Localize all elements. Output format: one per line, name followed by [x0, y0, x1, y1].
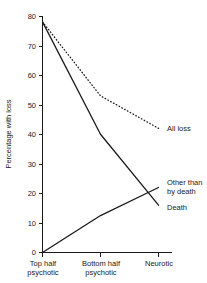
x-cat-label-1-line2: psychotic	[85, 268, 117, 277]
y-tick-label-70: 70	[28, 42, 36, 51]
y-tick-label-40: 40	[28, 130, 36, 139]
y-tick-label-60: 60	[28, 71, 36, 80]
y-tick-label-80: 80	[28, 12, 36, 21]
series-label-other-than-line2: by death	[167, 187, 196, 196]
y-tick-label-10: 10	[28, 219, 36, 228]
x-axis-ticks	[43, 253, 159, 257]
series-path-all-loss	[43, 22, 159, 128]
series-label-other-than-line1: Other than	[167, 178, 202, 187]
y-axis-tick-labels: 80 70 60 50 40 30 20 10 0	[28, 12, 36, 257]
y-tick-label-30: 30	[28, 160, 36, 169]
x-cat-label-0-line2: psychotic	[27, 268, 59, 277]
series-path-death	[43, 22, 159, 205]
series-label-death: Death	[167, 203, 187, 212]
x-cat-label-1-line1: Bottom half	[82, 259, 121, 268]
y-tick-label-20: 20	[28, 189, 36, 198]
x-cat-label-2-line1: Neurotic	[145, 259, 173, 268]
series-path-other-than-by-death	[43, 187, 159, 252]
series-label-all-loss: All loss	[167, 124, 191, 133]
y-tick-label-0: 0	[32, 248, 36, 257]
x-cat-label-0-line1: Top half	[30, 259, 57, 268]
y-tick-label-50: 50	[28, 101, 36, 110]
x-axis-category-labels: Top half psychotic Bottom half psychotic…	[27, 259, 173, 277]
y-axis-title: Percentage with loss	[4, 99, 13, 168]
chart-page: Percentage with loss 80 70 60 50 40 30 2…	[0, 0, 207, 283]
series-group	[43, 22, 159, 253]
line-chart: Percentage with loss 80 70 60 50 40 30 2…	[0, 0, 207, 283]
y-axis-ticks	[39, 17, 43, 253]
series-labels: All loss Other than by death Death	[167, 124, 202, 212]
